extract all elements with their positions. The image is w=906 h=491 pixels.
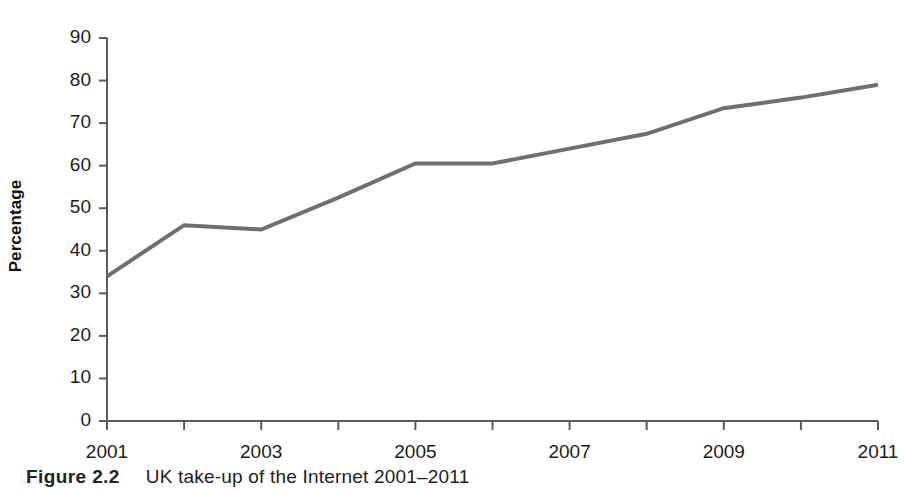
x-axis-ticks [107,421,878,430]
x-tick-label: 2007 [535,441,605,463]
figure-container: Percentage 0102030405060708090 200120032… [0,0,906,491]
y-tick-label: 0 [47,409,91,431]
y-tick-label: 90 [47,26,91,48]
y-tick-label: 80 [47,69,91,91]
y-tick-label: 30 [47,281,91,303]
y-tick-label: 10 [47,366,91,388]
x-tick-label: 2001 [72,441,142,463]
figure-caption: Figure 2.2UK take-up of the Internet 200… [0,466,906,491]
caption-text: UK take-up of the Internet 2001–2011 [146,466,470,487]
caption-label: Figure 2.2 [26,466,120,487]
chart-plot-area: Percentage 0102030405060708090 200120032… [0,0,906,440]
x-tick-label: 2009 [689,441,759,463]
x-tick-label: 2011 [843,441,906,463]
y-tick-label: 40 [47,239,91,261]
y-axis-title: Percentage [6,136,26,316]
y-tick-label: 70 [47,111,91,133]
y-tick-label: 50 [47,196,91,218]
data-series-line [107,85,878,276]
y-tick-label: 60 [47,154,91,176]
y-tick-label: 20 [47,324,91,346]
x-tick-label: 2005 [380,441,450,463]
x-tick-label: 2003 [226,441,296,463]
line-chart-svg [0,0,906,440]
y-axis-ticks [99,38,107,421]
